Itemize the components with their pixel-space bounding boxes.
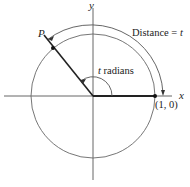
distance-label-var: t xyxy=(180,27,184,38)
angle-label: t radians xyxy=(98,65,134,76)
distance-label: Distance = t xyxy=(132,27,184,38)
radius-to-p xyxy=(44,35,93,96)
point-1-0-label: (1, 0) xyxy=(155,99,178,111)
point-p-dot xyxy=(51,46,55,50)
angle-label-text: radians xyxy=(101,65,134,76)
distance-arrow-end-icon xyxy=(161,90,165,96)
distance-label-prefix: Distance = xyxy=(132,27,180,38)
point-1-0-dot xyxy=(153,94,157,98)
y-axis-label: y xyxy=(88,0,94,11)
x-axis-label: x xyxy=(178,89,184,101)
unit-circle-diagram: y x P (1, 0) t radians Distance = t xyxy=(0,0,190,187)
point-p-label: P xyxy=(37,27,45,39)
